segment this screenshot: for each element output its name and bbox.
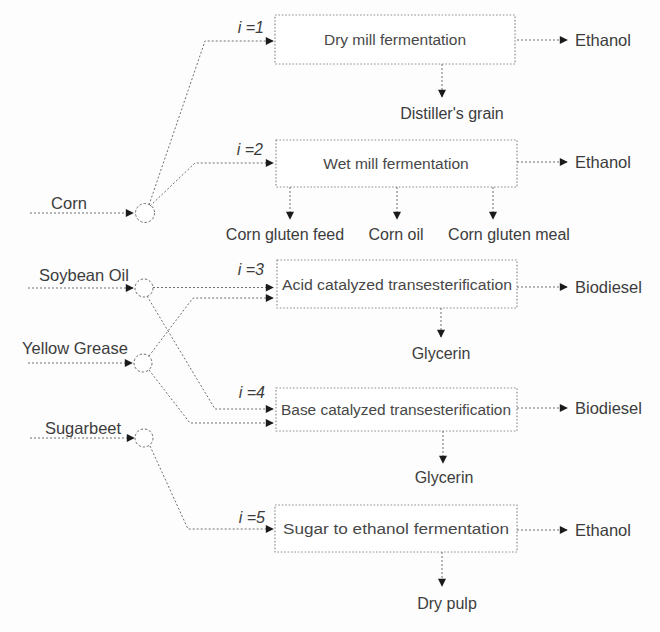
- byproduct-label: Distiller's grain: [400, 105, 504, 122]
- corn-to-drymill-connector: [149, 41, 273, 205]
- process-acid-transesterification: i =3 Acid catalyzed transesterification …: [238, 260, 642, 362]
- feedstock-yellow-grease: Yellow Grease: [22, 339, 152, 372]
- product-label: Biodiesel: [575, 399, 642, 417]
- sugarbeet-junction-circle: [135, 429, 153, 447]
- process-index-label: i =5: [239, 509, 265, 526]
- process-name: Base catalyzed transesterification: [281, 401, 511, 418]
- process-index-label: i =4: [239, 384, 265, 401]
- process-name: Dry mill fermentation: [324, 31, 466, 48]
- feedstock-sugarbeet: Sugarbeet: [30, 419, 153, 447]
- byproduct-label: Corn gluten meal: [448, 226, 570, 243]
- diagram-canvas: Corn Soybean Oil Yellow Grease Sugarbeet…: [0, 0, 660, 632]
- process-name: Wet mill fermentation: [323, 155, 468, 172]
- process-base-transesterification: i =4 Base catalyzed transesterification …: [239, 384, 642, 486]
- byproduct-label: Corn oil: [368, 226, 423, 243]
- process-wet-mill: i =2 Wet mill fermentation Ethanol Corn …: [226, 140, 631, 243]
- process-flow-diagram: Corn Soybean Oil Yellow Grease Sugarbeet…: [0, 0, 660, 632]
- process-index-label: i =1: [238, 19, 264, 36]
- feedstock-yellow-grease-label: Yellow Grease: [22, 339, 128, 357]
- process-name: Acid catalyzed transesterification: [282, 276, 512, 293]
- feedstock-corn-label: Corn: [51, 194, 87, 212]
- feedstock-corn: Corn: [30, 194, 155, 223]
- corn-to-wetmill-connector: [150, 163, 273, 206]
- process-index-label: i =3: [238, 261, 264, 278]
- soybean-oil-junction-circle: [135, 279, 153, 297]
- process-dry-mill: i =1 Dry mill fermentation Ethanol Disti…: [238, 15, 631, 122]
- process-sugar-to-ethanol: i =5 Sugar to ethanol fermentation Ethan…: [239, 505, 631, 612]
- yellowgrease-to-acid-connector: [149, 298, 273, 356]
- process-name: Sugar to ethanol fermentation: [283, 520, 509, 537]
- corn-junction-circle: [136, 204, 155, 223]
- feedstock-sugarbeet-label: Sugarbeet: [45, 419, 122, 437]
- byproduct-label: Dry pulp: [417, 595, 477, 612]
- feedstock-soybean-oil: Soybean Oil: [28, 266, 153, 297]
- product-label: Ethanol: [575, 31, 631, 49]
- byproduct-label: Corn gluten feed: [226, 226, 344, 243]
- product-label: Ethanol: [575, 521, 631, 539]
- byproduct-label: Glycerin: [415, 469, 474, 486]
- product-label: Biodiesel: [575, 278, 642, 296]
- product-label: Ethanol: [575, 153, 631, 171]
- process-index-label: i =2: [237, 141, 263, 158]
- feedstock-soybean-oil-label: Soybean Oil: [39, 266, 129, 284]
- yellow-grease-junction-circle: [134, 354, 152, 372]
- byproduct-label: Glycerin: [412, 345, 471, 362]
